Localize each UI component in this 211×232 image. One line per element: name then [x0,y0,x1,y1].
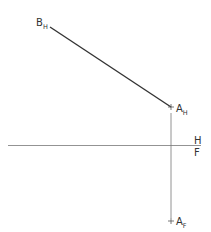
diagram-canvas: BH AH AF H F [0,0,211,232]
label-bh: BH [36,17,48,31]
point-mark-af [168,218,174,224]
label-af: AF [176,216,187,230]
fold-label-h: H [194,135,202,146]
label-ah: AH [176,103,188,117]
line-bh-ah [50,27,171,107]
fold-label-f: F [194,147,200,158]
